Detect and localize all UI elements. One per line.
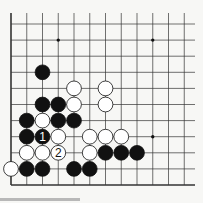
white-stone	[98, 81, 113, 96]
white-stone: 2	[51, 145, 66, 160]
move-number-label: 1	[39, 130, 46, 144]
page-edge-bar	[0, 198, 80, 201]
white-stone	[35, 145, 50, 160]
white-stone	[35, 113, 50, 128]
black-stone: 1	[35, 129, 50, 144]
black-stone	[67, 162, 82, 177]
star-point	[151, 135, 154, 138]
white-stone	[67, 81, 82, 96]
black-stone	[51, 97, 66, 112]
white-stone	[98, 129, 113, 144]
black-stone	[35, 162, 50, 177]
white-stone	[51, 129, 66, 144]
black-stone	[35, 97, 50, 112]
white-stone	[114, 129, 129, 144]
go-board: 12	[0, 0, 203, 203]
white-stone	[19, 145, 34, 160]
star-point	[151, 38, 154, 41]
black-stone	[51, 113, 66, 128]
black-stone	[19, 129, 34, 144]
move-number-label: 2	[55, 146, 62, 160]
white-stone	[4, 162, 19, 177]
white-stone	[82, 129, 97, 144]
white-stone	[82, 145, 97, 160]
white-stone	[98, 97, 113, 112]
black-stone	[98, 145, 113, 160]
black-stone	[19, 162, 34, 177]
star-point	[57, 38, 60, 41]
black-stone	[35, 65, 50, 80]
black-stone	[130, 145, 145, 160]
black-stone	[67, 113, 82, 128]
black-stone	[114, 145, 129, 160]
black-stone	[82, 162, 97, 177]
black-stone	[19, 113, 34, 128]
white-stone	[67, 97, 82, 112]
